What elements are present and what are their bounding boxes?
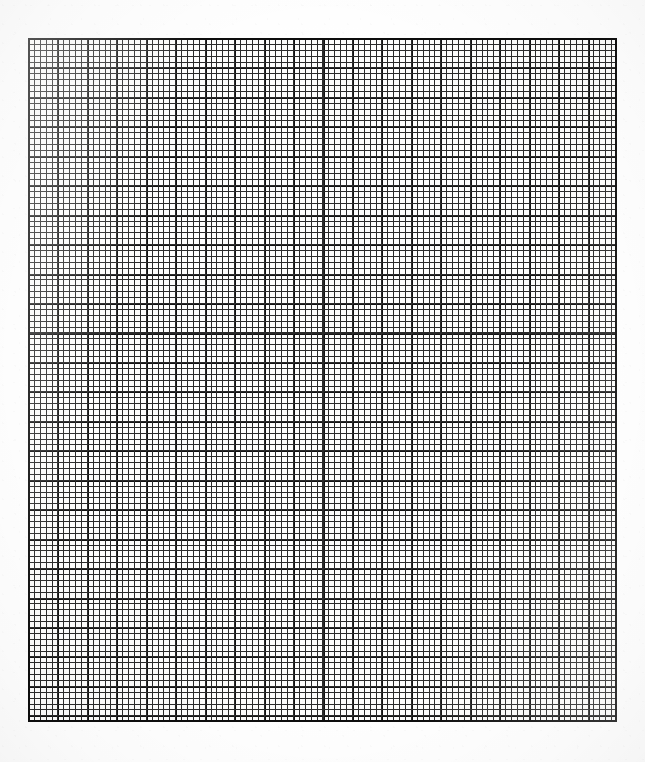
paper-sheet — [0, 0, 645, 762]
graph-paper-grid — [28, 38, 617, 722]
